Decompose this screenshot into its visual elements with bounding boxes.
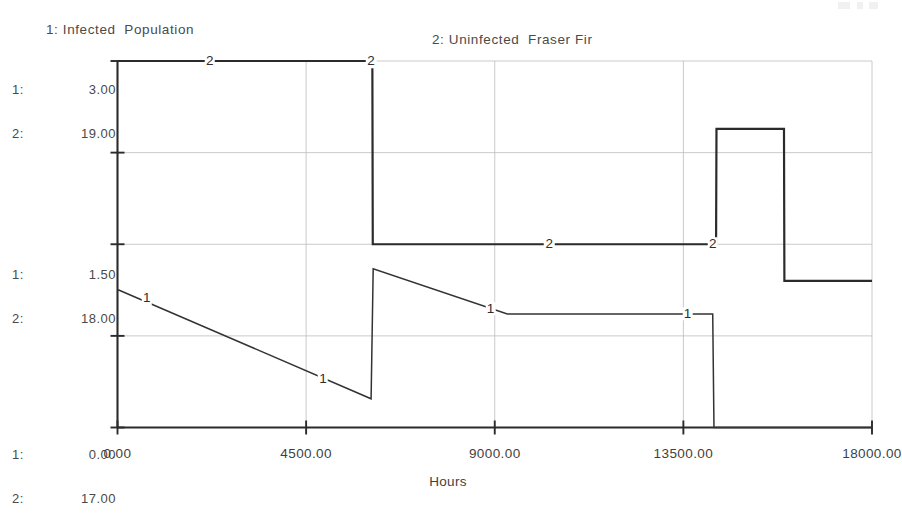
x-tick-label-0: 0.00 — [104, 446, 132, 461]
x-tick-label-4500: 4500.00 — [280, 446, 332, 461]
x-axis-title: Hours — [0, 474, 896, 489]
x-tick-label-18000: 18000.00 — [842, 446, 902, 461]
axis-ticks — [111, 61, 873, 435]
series-marker-2: 2 — [544, 238, 555, 252]
series-marker-2: 2 — [204, 54, 215, 68]
series-marker-2: 2 — [366, 54, 377, 68]
x-tick-label-9000: 9000.00 — [469, 446, 521, 461]
series-marker-1: 1 — [682, 307, 693, 321]
series-marker-1: 1 — [318, 372, 329, 386]
series-marker-1: 1 — [485, 302, 496, 316]
series-marker-1: 1 — [142, 291, 153, 305]
series-marker-2: 2 — [707, 238, 718, 252]
x-tick-label-13500: 13500.00 — [654, 446, 714, 461]
